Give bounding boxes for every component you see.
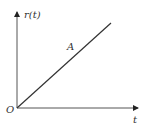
y-axis-label: r(t)	[24, 9, 41, 20]
diagram-canvas: r(t) t O A	[0, 0, 143, 134]
line-a	[17, 23, 111, 108]
line-a-label: A	[66, 41, 74, 52]
x-axis-label: t	[133, 114, 138, 125]
origin-label: O	[6, 104, 14, 115]
